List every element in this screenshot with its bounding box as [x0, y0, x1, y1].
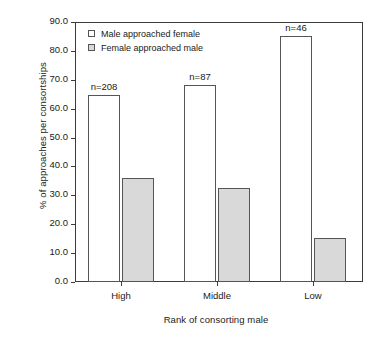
chart-legend: Male approached femaleFemale approached …: [88, 27, 203, 55]
x-tick-mark: [121, 282, 122, 286]
bar-low-series1: [280, 36, 312, 282]
bar-high-series2: [122, 178, 154, 282]
y-tick-mark: [71, 166, 75, 167]
y-tick-mark: [71, 22, 75, 23]
y-tick-mark: [71, 109, 75, 110]
x-tick: Low: [313, 282, 314, 286]
bar-chart-figure: % of approaches per consortships 0.010.0…: [0, 0, 387, 338]
y-tick: 90.0: [0, 22, 75, 23]
sample-size-label-middle: n=87: [170, 71, 230, 82]
x-tick-mark: [313, 282, 314, 286]
legend-swatch-white-icon: [88, 30, 95, 37]
y-tick-label: 10.0: [50, 246, 69, 257]
y-tick-label: 80.0: [50, 44, 69, 55]
x-tick-label: Middle: [177, 290, 257, 301]
x-tick-label: High: [81, 290, 161, 301]
y-tick: 50.0: [0, 138, 75, 139]
y-tick: 20.0: [0, 224, 75, 225]
bar-high-series1: [88, 95, 120, 282]
y-tick-label: 70.0: [50, 73, 69, 84]
y-tick-mark: [71, 282, 75, 283]
y-tick-mark: [71, 138, 75, 139]
y-tick: 60.0: [0, 109, 75, 110]
legend-item-2: Female approached male: [88, 41, 203, 54]
y-tick-label: 20.0: [50, 217, 69, 228]
y-tick-mark: [71, 253, 75, 254]
y-tick: 70.0: [0, 80, 75, 81]
y-tick-label: 90.0: [50, 15, 69, 26]
x-tick: Middle: [217, 282, 218, 286]
y-tick-label: 50.0: [50, 131, 69, 142]
y-tick-label: 0.0: [55, 275, 68, 286]
bar-low-series2: [314, 238, 346, 282]
legend-label: Male approached female: [101, 29, 200, 39]
sample-size-label-low: n=46: [266, 22, 326, 33]
legend-label: Female approached male: [101, 43, 203, 53]
y-tick-mark: [71, 195, 75, 196]
y-tick: 30.0: [0, 195, 75, 196]
y-tick-label: 60.0: [50, 102, 69, 113]
bar-middle-series2: [218, 188, 250, 282]
y-tick-label: 30.0: [50, 188, 69, 199]
y-tick: 80.0: [0, 51, 75, 52]
sample-size-label-high: n=208: [74, 81, 134, 92]
x-tick-label: Low: [273, 290, 353, 301]
x-tick-mark: [217, 282, 218, 286]
legend-item-1: Male approached female: [88, 27, 203, 40]
y-tick-label: 40.0: [50, 159, 69, 170]
y-tick-mark: [71, 224, 75, 225]
y-tick: 40.0: [0, 166, 75, 167]
bar-middle-series1: [184, 85, 216, 282]
legend-swatch-gray-icon: [88, 44, 95, 51]
x-tick: High: [121, 282, 122, 286]
y-tick: 10.0: [0, 253, 75, 254]
y-axis-title: % of approaches per consortships: [37, 6, 48, 266]
x-axis-title: Rank of consorting male: [70, 314, 362, 325]
y-tick: 0.0: [0, 282, 75, 283]
y-tick-mark: [71, 51, 75, 52]
